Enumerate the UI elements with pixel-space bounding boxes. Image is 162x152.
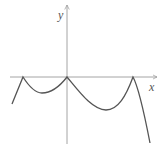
x-axis-label: x <box>148 80 155 94</box>
y-axis-label: y <box>57 8 64 22</box>
function-graph: y x <box>0 0 162 152</box>
function-curve <box>12 77 150 143</box>
